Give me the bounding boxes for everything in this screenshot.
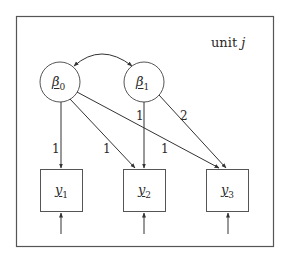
edge-beta1-y3	[159, 95, 226, 168]
frame-label: unit j	[211, 35, 245, 50]
label-beta1: β1	[136, 75, 149, 92]
edge-label-beta1-y3: 2	[180, 110, 188, 122]
edge-beta0-y2	[70, 99, 135, 168]
label-y1: y1	[55, 183, 68, 200]
edge-label-beta0-y3: 1	[161, 143, 169, 155]
edge-label-beta1-y2: 1	[136, 110, 144, 122]
label-beta0: β0	[52, 75, 65, 92]
edge-label-beta0-y1: 1	[52, 143, 60, 155]
label-y2: y2	[138, 183, 151, 200]
label-y3: y3	[221, 183, 234, 200]
edge-beta0-y3	[77, 92, 219, 168]
edge-label-beta0-y2: 1	[103, 143, 111, 155]
covariance-arrow	[74, 54, 132, 66]
